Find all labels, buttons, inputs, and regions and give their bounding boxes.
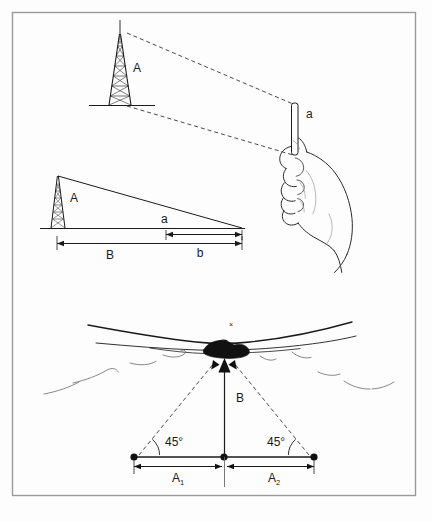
top-stick-label: a [306,107,313,121]
angle-label-left: 45° [165,435,183,449]
hypotenuse-label: a [161,212,168,226]
top-tower-label: A [133,61,141,75]
middle-tower-label: A [70,191,78,205]
station-dot-right [310,453,317,460]
dimension-B-label: B [106,248,114,262]
angle-label-right: 45° [267,435,285,449]
figure-root: A a [0,0,432,521]
figure-background [0,0,432,521]
height-label-B: B [236,391,244,405]
station-dot-left [130,453,137,460]
measuring-stick-icon [292,103,299,155]
target-cross-mark: × [229,321,233,328]
technical-diagram: A a [0,0,432,521]
station-dot-center [220,453,227,460]
dimension-b-label: b [197,246,204,260]
